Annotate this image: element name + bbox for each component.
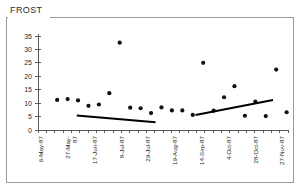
x-tick-label-line: 27-May-	[64, 136, 71, 159]
x-tick-label: 29-Jul-87	[144, 135, 151, 161]
data-point	[118, 41, 122, 45]
data-point	[274, 67, 278, 71]
data-point	[232, 84, 236, 88]
x-tick-labels-group: 6-May-8727-May-8717-Jun-878-Jul-8729-Jul…	[37, 135, 285, 164]
x-tick-label: 27-Nov-87	[278, 135, 285, 164]
trend-segment-2	[196, 100, 274, 115]
data-point	[55, 98, 59, 102]
data-point	[76, 98, 80, 102]
data-point	[170, 108, 174, 112]
data-point	[264, 114, 268, 118]
x-tick-label-line: 4-Oct-87	[225, 135, 232, 160]
data-point	[66, 97, 70, 101]
y-tick-label: 0	[28, 127, 32, 134]
data-point	[139, 106, 143, 110]
x-tick-label-line: 14-Sep-87	[198, 135, 205, 164]
data-point	[222, 95, 226, 99]
y-tick-label: 15	[24, 86, 32, 93]
data-point	[149, 111, 153, 115]
data-point	[201, 61, 205, 65]
y-tick-label: 25	[24, 59, 32, 66]
data-point	[243, 114, 247, 118]
y-axis: 05101520253035	[24, 33, 41, 134]
x-tick-label-line: 8-Jul-87	[118, 135, 125, 158]
trend-segment-1	[77, 116, 156, 123]
data-point	[180, 108, 184, 112]
x-tick-label-line: 6-May-87	[37, 135, 44, 162]
x-tick-label: 14-Sep-87	[198, 135, 205, 164]
data-point	[107, 91, 111, 95]
y-tick-label: 35	[24, 33, 32, 40]
y-tick-label: 30	[24, 46, 32, 53]
data-point	[128, 106, 132, 110]
data-point	[191, 113, 195, 117]
x-tick-label: 28-Oct-87	[252, 135, 259, 163]
x-tick-label: 17-Jun-87	[91, 135, 98, 163]
x-tick-label: 8-Jul-87	[118, 135, 125, 158]
x-tick-label-line: 17-Jun-87	[91, 135, 98, 163]
trend-lines-group	[77, 100, 273, 122]
y-tick-label: 10	[24, 100, 32, 107]
data-point	[86, 104, 90, 108]
y-tick-label: 20	[24, 73, 32, 80]
x-tick-label: 6-May-87	[37, 135, 44, 162]
x-tick-label: 19-Aug-87	[171, 135, 178, 164]
data-point	[285, 110, 289, 114]
x-tick-label-line: 19-Aug-87	[171, 135, 178, 164]
x-axis	[38, 130, 288, 133]
data-points-group	[55, 41, 289, 119]
x-tick-label-line: 87	[71, 135, 78, 142]
x-tick-label: 4-Oct-87	[225, 135, 232, 160]
data-point	[159, 105, 163, 109]
x-tick-label: 27-May-87	[64, 135, 78, 158]
scatter-plot: 05101520253035 6-May-8727-May-8717-Jun-8…	[0, 0, 303, 193]
x-tick-label-line: 29-Jul-87	[144, 135, 151, 161]
x-tick-label-line: 28-Oct-87	[252, 135, 259, 163]
frost-chart-figure: FROST 05101520253035 6-May-8727-May-8717…	[0, 0, 303, 193]
y-tick-label: 5	[28, 113, 32, 120]
data-point	[97, 102, 101, 106]
x-tick-label-line: 27-Nov-87	[278, 135, 285, 164]
